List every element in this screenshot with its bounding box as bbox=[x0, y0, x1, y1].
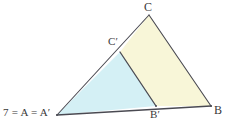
vertex-label-Cprime: C′ bbox=[108, 36, 118, 47]
vertex-label-Bprime: B′ bbox=[150, 109, 160, 120]
vertex-point-A bbox=[56, 114, 58, 116]
vertex-point-B bbox=[210, 105, 212, 107]
vertex-label-B: B bbox=[214, 104, 222, 116]
vertex-label-C: C bbox=[144, 1, 152, 13]
vertex-point-Bprime bbox=[155, 105, 157, 107]
vertex-label-origin: 7 = A = A′ bbox=[3, 107, 50, 118]
geometry-figure: C C′ B B′ 7 = A = A′ bbox=[0, 0, 233, 124]
